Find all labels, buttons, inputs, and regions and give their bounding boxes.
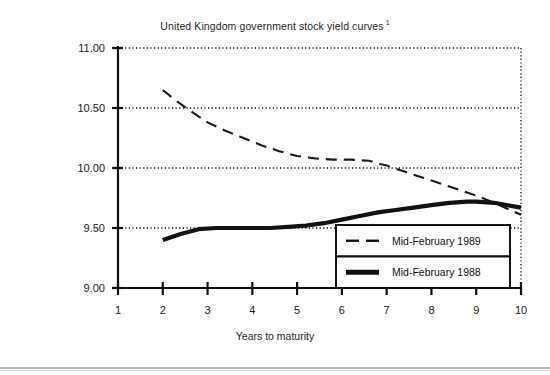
chart-plot-area: 9.009.5010.0010.5011.00 12345678910 Mid-… <box>0 0 550 375</box>
x-tick-label: 10 <box>515 304 527 316</box>
x-tick-label: 6 <box>339 304 345 316</box>
series-line <box>163 90 521 215</box>
x-tick-label: 3 <box>204 304 210 316</box>
x-tick-label: 2 <box>160 304 166 316</box>
x-tick-label: 5 <box>294 304 300 316</box>
chart-title-text: United Kingdom government stock yield cu… <box>160 20 383 32</box>
y-tick-label: 10.00 <box>77 162 105 174</box>
x-tick-label: 8 <box>428 304 434 316</box>
chart-title-footnote-marker: 1 <box>386 19 390 26</box>
x-tick-label: 9 <box>473 304 479 316</box>
y-tick-label: 9.00 <box>84 282 105 294</box>
chart-figure: United Kingdom government stock yield cu… <box>0 0 550 375</box>
x-tick-label: 1 <box>115 304 121 316</box>
y-tick-label: 10.50 <box>77 102 105 114</box>
y-tick-label: 11.00 <box>78 42 105 54</box>
x-tick-label: 4 <box>249 304 255 316</box>
x-axis-title: Years to maturity <box>0 330 550 342</box>
legend-label: Mid-February 1988 <box>392 266 481 278</box>
y-tick-label: 9.50 <box>84 222 105 234</box>
x-tick-label: 7 <box>384 304 390 316</box>
chart-title: United Kingdom government stock yield cu… <box>0 19 550 32</box>
y-axis: 9.009.5010.0010.5011.00 <box>77 42 123 294</box>
page-divider-secondary <box>0 370 550 371</box>
page-divider <box>0 367 550 369</box>
legend-label: Mid-February 1989 <box>392 235 481 247</box>
series-layer <box>163 90 521 240</box>
chart-legend[interactable]: Mid-February 1989Mid-February 1988 <box>336 225 510 288</box>
